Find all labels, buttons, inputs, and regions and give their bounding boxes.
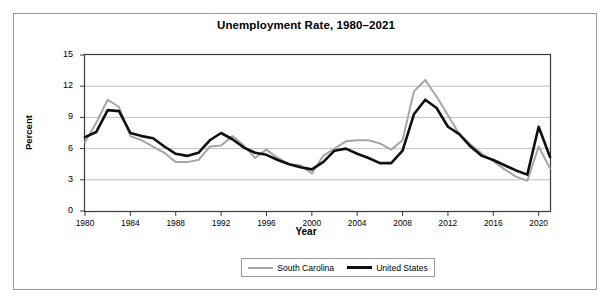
legend: South Carolina United States <box>241 258 435 277</box>
legend-label-south-carolina: South Carolina <box>277 263 334 273</box>
legend-item-united-states: United States <box>347 263 428 273</box>
y-tick-label: 12 <box>47 80 73 90</box>
legend-label-united-states: United States <box>376 263 428 273</box>
legend-swatch-icon-south-carolina <box>248 267 273 269</box>
y-tick-label: 3 <box>47 174 73 184</box>
y-tick-label: 6 <box>47 143 73 153</box>
y-tick-label: 0 <box>47 205 73 215</box>
legend-swatch-icon-united-states <box>347 266 372 269</box>
chart-title: Unemployment Rate, 1980–2021 <box>0 19 612 31</box>
figure-border <box>13 13 597 290</box>
y-tick-label: 15 <box>47 49 73 59</box>
y-axis-label: Percent <box>21 98 37 168</box>
x-axis-label: Year <box>0 226 612 237</box>
legend-item-south-carolina: South Carolina <box>248 263 334 273</box>
y-tick-label: 9 <box>47 111 73 121</box>
